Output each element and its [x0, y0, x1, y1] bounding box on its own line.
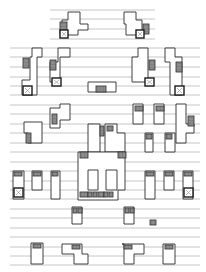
stair-icon	[80, 192, 88, 197]
room-outline	[106, 170, 117, 190]
stair-icon	[93, 192, 97, 197]
stair-icon	[80, 152, 88, 158]
stair-icon	[165, 172, 173, 176]
crossed-box-icon	[184, 188, 193, 197]
stair-icon	[149, 60, 155, 70]
stair-icon	[188, 116, 194, 126]
room-outline	[132, 48, 148, 82]
stair-icon	[184, 172, 192, 176]
stair-icon	[130, 208, 134, 213]
stair-icon	[125, 208, 129, 213]
crossed-box-icon	[52, 78, 61, 86]
stair-icon	[176, 62, 182, 72]
stair-icon	[96, 86, 106, 92]
crossed-box-icon	[23, 86, 32, 95]
stair-icon	[109, 192, 113, 197]
stair-icon	[26, 133, 31, 143]
stair-icon	[124, 245, 132, 249]
stair-icon	[52, 114, 57, 124]
stair-icon	[52, 172, 58, 176]
stair-icon	[73, 208, 77, 213]
stair-icon	[50, 60, 56, 70]
crossed-box-icon	[175, 86, 184, 95]
stair-icon	[14, 172, 22, 176]
stair-icon	[118, 152, 126, 158]
crossed-box-icon	[60, 30, 68, 38]
stair-icon	[150, 220, 156, 225]
stair-icon	[23, 58, 29, 68]
crossed-box-icon	[145, 78, 154, 86]
stair-icon	[166, 134, 172, 139]
stair-icon	[98, 192, 104, 197]
stair-icon	[107, 126, 113, 131]
stair-icon	[165, 245, 173, 249]
stair-icon	[146, 134, 152, 139]
stair-icon	[88, 192, 92, 197]
floor-plan-diagram	[0, 0, 206, 272]
stair-icon	[33, 244, 41, 248]
stair-icon	[33, 172, 41, 176]
stair-icon	[100, 126, 104, 136]
stair-icon	[156, 106, 164, 111]
room-outline	[88, 170, 98, 190]
stair-icon	[72, 245, 80, 249]
stair-icon	[135, 106, 143, 111]
stair-icon	[146, 172, 154, 176]
stair-icon	[78, 208, 82, 213]
stair-icon	[104, 192, 108, 197]
crossed-box-icon	[136, 30, 144, 38]
crossed-box-icon	[14, 188, 23, 197]
room-outline	[88, 124, 100, 152]
